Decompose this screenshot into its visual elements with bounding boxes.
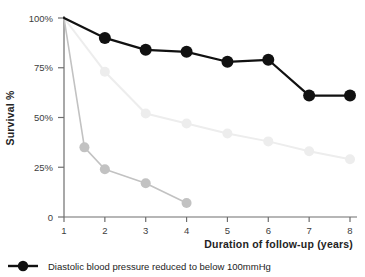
y-tick-label: 0 <box>48 212 53 223</box>
data-point-marker <box>99 32 111 44</box>
data-point-marker <box>79 142 89 152</box>
data-series <box>64 18 356 102</box>
x-tick-label: 7 <box>306 225 311 236</box>
data-point-marker <box>221 56 233 68</box>
series-line <box>64 18 350 96</box>
x-tick-label: 5 <box>225 225 230 236</box>
survival-line-chart: Survival % 100% 75% 50% 25% 0 12345678 D… <box>0 0 365 277</box>
data-point-marker <box>222 128 232 138</box>
data-series <box>64 18 192 208</box>
x-tick-label: 4 <box>184 225 189 236</box>
chart-legend: Diastolic blood pressure reduced to belo… <box>8 261 271 272</box>
y-tick-label: 50% <box>34 112 54 123</box>
data-point-marker <box>344 90 356 102</box>
legend-label: Diastolic blood pressure reduced to belo… <box>48 261 271 272</box>
x-tick-label: 2 <box>102 225 107 236</box>
data-point-marker <box>263 136 273 146</box>
y-axis-label: Survival % <box>4 90 16 146</box>
data-point-marker <box>181 46 193 58</box>
x-tick-label: 8 <box>347 225 352 236</box>
legend-marker-icon <box>18 261 28 271</box>
series-layer <box>64 18 356 208</box>
y-tick-label: 75% <box>34 62 54 73</box>
data-point-marker <box>304 146 314 156</box>
chart-figure: Survival % 100% 75% 50% 25% 0 12345678 D… <box>0 0 365 277</box>
data-point-marker <box>345 154 355 164</box>
x-tick-label: 1 <box>61 225 66 236</box>
data-point-marker <box>182 198 192 208</box>
data-point-marker <box>141 178 151 188</box>
y-tick-label: 100% <box>29 13 54 24</box>
x-axis-ticks: 12345678 <box>61 217 352 236</box>
data-point-marker <box>141 109 151 119</box>
data-point-marker <box>182 118 192 128</box>
y-tick-label: 25% <box>34 162 54 173</box>
data-point-marker <box>100 164 110 174</box>
data-point-marker <box>303 90 315 102</box>
x-axis-label: Duration of follow-up (years) <box>204 238 353 250</box>
series-line <box>64 18 187 203</box>
x-tick-label: 6 <box>266 225 271 236</box>
data-point-marker <box>140 44 152 56</box>
x-tick-label: 3 <box>143 225 148 236</box>
y-axis-ticks: 100% 75% 50% 25% 0 <box>29 13 64 223</box>
data-point-marker <box>100 67 110 77</box>
data-point-marker <box>262 54 274 66</box>
